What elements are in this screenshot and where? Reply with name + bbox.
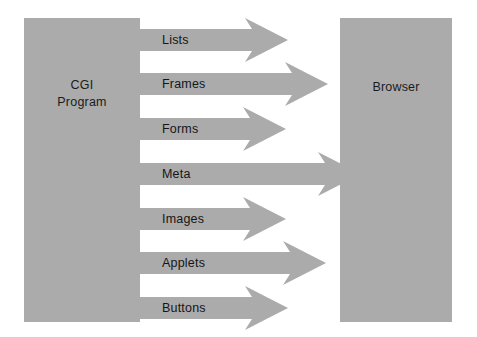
arrow-images: Images (136, 197, 286, 241)
cgi-program-label: CGI Program (24, 77, 140, 111)
arrow-buttons: Buttons (136, 286, 288, 330)
arrow-frames: Frames (136, 62, 328, 106)
arrow-polygon (136, 107, 286, 151)
arrow-shape-meta (136, 152, 361, 196)
browser-label: Browser (340, 79, 452, 96)
browser-panel: Browser (340, 18, 452, 322)
arrow-shape-images (136, 197, 286, 241)
arrow-polygon (136, 152, 361, 196)
arrow-polygon (136, 18, 288, 62)
arrow-applets: Applets (136, 241, 326, 285)
arrow-polygon (136, 62, 328, 106)
arrow-shape-lists (136, 18, 288, 62)
arrow-polygon (136, 286, 288, 330)
arrow-meta: Meta (136, 152, 361, 196)
arrow-forms: Forms (136, 107, 286, 151)
diagram-canvas: CGI Program ListsFramesFormsMetaImagesAp… (0, 0, 477, 337)
arrow-lists: Lists (136, 18, 288, 62)
cgi-program-panel: CGI Program (24, 18, 140, 322)
arrow-polygon (136, 241, 326, 285)
arrow-shape-applets (136, 241, 326, 285)
arrow-shape-buttons (136, 286, 288, 330)
arrow-shape-frames (136, 62, 328, 106)
arrow-shape-forms (136, 107, 286, 151)
arrow-polygon (136, 197, 286, 241)
